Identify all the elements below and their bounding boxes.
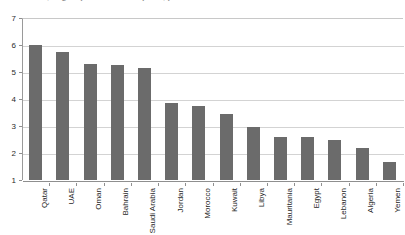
x-tick-mark (104, 183, 105, 186)
caption-strip: Individuals, in groups due to corruption… (0, 0, 405, 7)
x-tick-mark (376, 183, 377, 186)
x-tick-mark (294, 183, 295, 186)
x-tick-label: Jordan (176, 188, 185, 212)
x-tick-mark (49, 183, 50, 186)
x-tick-mark (158, 183, 159, 186)
y-tick-label: 2 (0, 149, 16, 158)
bar (29, 45, 42, 180)
bar (356, 148, 369, 180)
x-tick-mark (185, 183, 186, 186)
x-tick-label: Lebanon (339, 188, 348, 219)
bar-chart: Individuals, in groups due to corruption… (0, 0, 405, 235)
y-tick-label: 6 (0, 41, 16, 50)
bar (274, 137, 287, 180)
x-tick-label: Bahrain (121, 188, 130, 216)
x-tick-label: Oman (94, 188, 103, 210)
bar (301, 137, 314, 180)
x-tick-label: Libya (257, 188, 266, 207)
x-tick-label: Qatar (40, 188, 49, 208)
bar (111, 65, 124, 180)
y-tick-label: 3 (0, 122, 16, 131)
bar (84, 64, 97, 180)
y-tick-label: 1 (0, 176, 16, 185)
x-tick-label: Kuwait (230, 188, 239, 212)
x-tick-mark (131, 183, 132, 186)
x-tick-label: Egypt (312, 188, 321, 208)
bar (220, 114, 233, 180)
x-tick-label: Algeria (366, 188, 375, 213)
x-tick-label: Mauritania (285, 188, 294, 225)
x-tick-label: UAE (67, 188, 76, 204)
axis-baseline (23, 181, 404, 182)
bar-series (22, 18, 403, 181)
bar (328, 140, 341, 181)
x-tick-label: Morocco (203, 188, 212, 219)
y-tick-label: 5 (0, 68, 16, 77)
bar (165, 103, 178, 180)
bar (192, 106, 205, 180)
bar (56, 52, 69, 180)
x-tick-mark (213, 183, 214, 186)
y-tick-label: 4 (0, 95, 16, 104)
x-tick-mark (321, 183, 322, 186)
y-tick-label: 7 (0, 14, 16, 23)
x-tick-label: Saudi Arabia (148, 188, 157, 233)
bar (138, 68, 151, 180)
x-tick-mark (240, 183, 241, 186)
x-axis-labels: QatarUAEOmanBahrainSaudi ArabiaJordanMor… (22, 183, 403, 235)
x-tick-label: Yemen (393, 188, 402, 213)
bar (383, 162, 396, 180)
x-tick-mark (403, 183, 404, 186)
x-tick-mark (267, 183, 268, 186)
x-tick-mark (349, 183, 350, 186)
x-tick-mark (76, 183, 77, 186)
bar (247, 127, 260, 180)
caption-text: Individuals, in groups due to corruption… (3, 0, 193, 1)
